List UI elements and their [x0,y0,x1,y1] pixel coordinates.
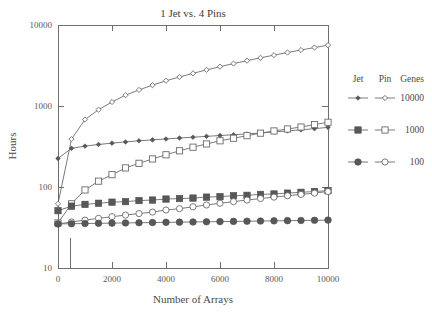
data-marker-diamond [190,71,195,76]
data-marker-diamond [204,134,209,139]
data-marker-square [203,141,209,147]
data-marker-square [355,127,361,133]
data-marker-diamond [137,138,142,143]
data-marker-circle [122,212,128,218]
data-marker-diamond [177,74,182,79]
data-marker-square [82,201,88,207]
data-marker-square [203,194,209,200]
y-axis-ticks: 10100100010000 [30,20,329,273]
data-marker-circle [109,214,115,220]
y-tick-label: 1000 [34,101,53,111]
data-marker-circle [298,191,304,197]
data-marker-square [136,160,142,166]
data-marker-diamond [231,61,236,66]
data-marker-circle [82,220,89,227]
data-marker-circle [149,219,156,226]
legend-genes-value: 100 [410,157,425,167]
data-marker-circle [68,220,75,227]
data-marker-diamond [325,43,330,48]
data-marker-circle [284,217,291,224]
data-marker-circle [311,190,317,196]
data-marker-square [271,128,277,134]
data-marker-diamond [298,47,303,52]
data-marker-diamond [271,53,276,58]
x-tick-label: 4000 [157,274,176,284]
data-marker-square [190,195,196,201]
data-marker-square [382,127,388,133]
data-marker-circle [244,218,251,225]
data-marker-diamond [244,58,249,63]
data-marker-diamond [191,135,196,140]
data-marker-circle [244,197,250,203]
data-marker-circle [190,204,196,210]
data-marker-diamond [69,137,74,142]
data-marker-square [230,135,236,141]
data-marker-diamond [177,136,182,141]
data-marker-diamond [123,140,128,145]
data-marker-circle [109,220,116,227]
data-marker-square [149,197,155,203]
data-marker-diamond [150,83,155,88]
x-tick-label: 8000 [265,274,284,284]
data-marker-circle [298,217,305,224]
data-marker-circle [271,218,278,225]
data-marker-square [55,207,61,213]
chart-figure: 10100100010000 0200040006000800010000 1 … [0,0,432,318]
data-marker-square [176,148,182,154]
data-marker-circle [136,219,143,226]
data-marker-square [163,196,169,202]
x-tick-label: 2000 [103,274,122,284]
data-marker-diamond [218,133,223,138]
data-marker-square [230,193,236,199]
data-marker-circle [203,202,209,208]
data-marker-square [284,126,290,132]
data-marker-circle [176,206,182,212]
data-marker-circle [382,159,388,165]
legend-header-genes: Genes [400,74,424,84]
data-marker-square [163,152,169,158]
data-marker-circle [271,194,277,200]
data-marker-circle [203,218,210,225]
data-marker-diamond [96,142,101,147]
data-marker-diamond [55,201,60,206]
data-marker-square [68,203,74,209]
data-marker-diamond [312,45,317,50]
data-marker-square [190,144,196,150]
data-marker-circle [95,220,102,227]
chart-title: 1 Jet vs. 4 Pins [160,7,226,19]
data-marker-diamond [83,144,88,149]
x-tick-label: 0 [56,274,61,284]
data-marker-circle [230,199,236,205]
data-marker-diamond [150,138,155,143]
data-marker-circle [355,159,362,166]
data-marker-diamond [164,137,169,142]
data-marker-circle [284,193,290,199]
data-marker-square [257,130,263,136]
x-tick-label: 10000 [317,274,340,284]
data-marker-diamond [109,99,114,104]
data-marker-circle [325,217,332,224]
data-marker-circle [257,218,264,225]
data-marker-square [109,199,115,205]
data-marker-circle [230,218,237,225]
data-marker-diamond [285,50,290,55]
data-marker-square [217,138,223,144]
data-marker-circle [55,221,62,228]
data-marker-circle [257,195,263,201]
data-marker-diamond [163,78,168,83]
data-marker-diamond [204,67,209,72]
x-axis-label: Number of Arrays [153,293,233,305]
data-marker-diamond [382,95,387,100]
data-marker-circle [149,209,155,215]
x-axis-ticks: 0200040006000800010000 [56,25,340,284]
data-marker-square [298,124,304,130]
data-marker-square [82,187,88,193]
data-marker-square [244,133,250,139]
data-marker-circle [217,200,223,206]
data-marker-diamond [258,55,263,60]
legend-header-pin: Pin [379,74,392,84]
data-marker-circle [163,219,170,226]
data-marker-square [311,121,317,127]
data-marker-square [95,178,101,184]
chart-legend: JetPinGenes100001000100 [348,74,424,167]
